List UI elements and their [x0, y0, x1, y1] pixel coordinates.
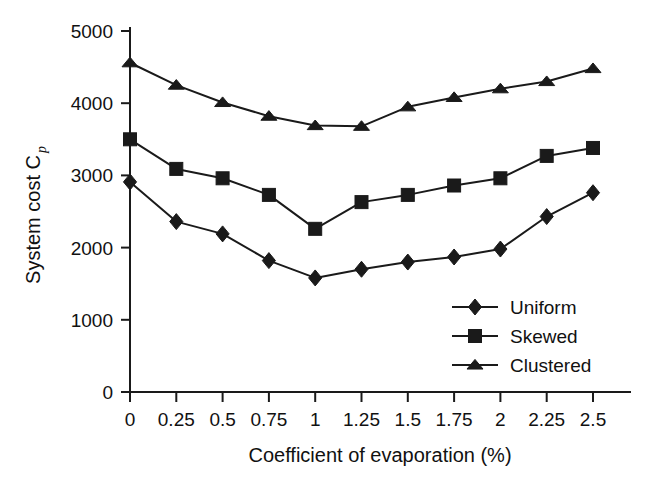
series-clustered: [122, 57, 601, 130]
triangle-marker: [168, 80, 184, 90]
triangle-marker: [215, 97, 231, 107]
legend-label: Skewed: [510, 326, 578, 347]
legend-item-clustered: Clustered: [452, 355, 591, 376]
y-axis-ticks: [121, 31, 130, 392]
series-line: [130, 139, 593, 229]
x-tick-label: 1.75: [436, 409, 473, 430]
x-axis-title: Coefficient of evaporation (%): [248, 444, 511, 466]
square-marker: [540, 149, 553, 162]
x-tick-label: 2: [495, 409, 506, 430]
triangle-marker: [585, 63, 601, 73]
y-tick-label: 1000: [71, 310, 113, 331]
diamond-marker: [262, 253, 275, 269]
svg-text:System cost Cp: System cost Cp: [22, 146, 49, 284]
square-marker: [401, 188, 414, 201]
diamond-marker: [355, 261, 368, 277]
square-marker: [587, 141, 600, 154]
square-marker: [216, 172, 229, 185]
diamond-marker: [494, 241, 507, 257]
square-marker: [494, 172, 507, 185]
y-tick-label: 0: [102, 382, 113, 403]
square-marker: [262, 188, 275, 201]
series-line: [130, 63, 593, 127]
square-marker: [309, 222, 322, 235]
square-marker: [124, 133, 137, 146]
diamond-marker: [309, 270, 322, 286]
square-marker: [448, 179, 461, 192]
x-tick-label: 2.25: [528, 409, 565, 430]
y-axis-title-text: System cost C: [22, 155, 44, 284]
x-tick-label: 0.25: [158, 409, 195, 430]
square-marker: [170, 162, 183, 175]
diamond-marker: [216, 226, 229, 242]
chart-figure: System cost Cp 010002000300040005000 00.…: [0, 0, 652, 484]
x-tick-label: 1.25: [343, 409, 380, 430]
y-axis-title-subscript: p: [34, 146, 49, 154]
y-tick-label: 3000: [71, 165, 113, 186]
x-tick-label: 0.5: [209, 409, 235, 430]
chart-legend: UniformSkewedClustered: [452, 297, 591, 376]
diamond-marker: [448, 249, 461, 265]
diamond-marker: [540, 209, 553, 225]
square-marker: [355, 196, 368, 209]
y-tick-label: 4000: [71, 93, 113, 114]
x-tick-label: 1: [310, 409, 321, 430]
data-series-layer: [122, 57, 601, 286]
y-axis-tick-labels: 010002000300040005000: [71, 21, 113, 403]
legend-item-skewed: Skewed: [452, 326, 578, 347]
x-axis-tick-labels: 00.250.50.7511.251.51.7522.252.5: [125, 409, 607, 430]
legend-item-uniform: Uniform: [452, 297, 577, 318]
x-tick-label: 0: [125, 409, 136, 430]
square-icon: [469, 330, 482, 343]
x-tick-label: 2.5: [580, 409, 606, 430]
y-tick-label: 5000: [71, 21, 113, 42]
legend-label: Uniform: [510, 297, 577, 318]
triangle-marker: [122, 57, 138, 67]
x-axis-ticks: [130, 392, 593, 402]
series-uniform: [123, 174, 599, 286]
line-chart-plot: System cost Cp 010002000300040005000 00.…: [0, 0, 652, 484]
x-tick-label: 0.75: [250, 409, 287, 430]
legend-label: Clustered: [510, 355, 591, 376]
diamond-marker: [586, 185, 599, 201]
series-skewed: [124, 133, 600, 236]
diamond-marker: [401, 254, 414, 270]
diamond-icon: [468, 299, 481, 315]
y-axis-title: System cost Cp: [22, 146, 49, 284]
diamond-marker: [170, 214, 183, 230]
y-tick-label: 2000: [71, 238, 113, 259]
x-tick-label: 1.5: [395, 409, 421, 430]
